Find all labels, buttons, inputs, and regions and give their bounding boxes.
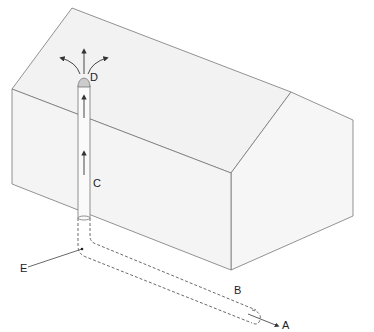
label-b: B <box>234 285 241 296</box>
house-diagram <box>0 0 374 332</box>
leader-e <box>28 249 82 267</box>
label-a: A <box>282 320 289 331</box>
label-d: D <box>90 72 98 83</box>
arrow-a <box>248 314 278 326</box>
label-c: C <box>93 178 101 189</box>
label-e: E <box>20 263 27 274</box>
